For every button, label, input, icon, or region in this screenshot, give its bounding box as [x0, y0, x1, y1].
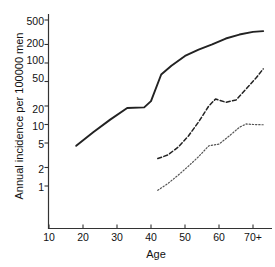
data-series-layer	[76, 31, 263, 190]
series-line-dotted	[158, 124, 263, 190]
axis-lines	[49, 14, 273, 229]
series-line-dashed	[158, 69, 263, 159]
series-line-solid	[76, 31, 263, 146]
incidence-by-age-chart: Annual incidence per 100000 men 500 200 …	[0, 0, 275, 267]
plot-area	[0, 0, 275, 267]
